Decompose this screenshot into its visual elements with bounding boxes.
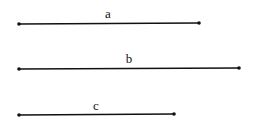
segments-diagram: a b c [0, 0, 261, 133]
endpoint-dot [237, 66, 241, 70]
segment-a: a [17, 6, 201, 26]
endpoint-dot [172, 112, 176, 116]
segment-label-b: b [126, 51, 133, 66]
segment-c: c [17, 98, 176, 117]
segment-label-a: a [105, 6, 111, 21]
segment-b: b [17, 51, 241, 71]
segment-label-c: c [93, 98, 99, 113]
endpoint-dot [17, 22, 21, 26]
endpoint-dot [17, 67, 21, 71]
endpoint-dot [17, 113, 21, 117]
endpoint-dot [197, 21, 201, 25]
